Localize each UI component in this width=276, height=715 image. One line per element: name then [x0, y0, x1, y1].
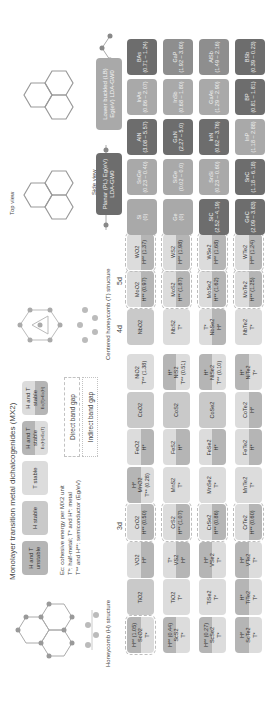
legend-direct-gap: Direct band gap: [64, 377, 80, 457]
tmd-cell: CoSe2: [199, 392, 226, 428]
iiiv-cell: SiGe(0.02 – 0.0): [163, 159, 193, 195]
iiiv-cell: GaN(2.27 – 5.0): [163, 119, 193, 155]
tmd-cell: H*NiTe2T*: [235, 355, 262, 391]
top-view-diagram: [14, 25, 84, 225]
tmd-cell: WSe2H** (1.68): [199, 234, 226, 270]
cell-phase: H** (1.24): [249, 240, 256, 264]
figure-canvas: Honeycomb (H) structure Monolayer transi…: [0, 0, 276, 715]
legend-t-stable: T stable: [22, 461, 48, 495]
cell-formula: NbO2: [137, 320, 144, 334]
cell-phase: H** (0.50): [141, 510, 148, 534]
tmd-cell: WTe2H** (1.24): [235, 234, 262, 270]
cell-phase: T*: [144, 632, 151, 638]
cell-phase: H** (0.86): [213, 510, 220, 534]
cell-gap-values: (3.08 – 5.57): [142, 121, 149, 152]
cell-phase: T** (1.38): [141, 361, 148, 385]
legend-note-semiconductor: T** and H**: semiconductor (Eg/eV): [74, 480, 82, 575]
cell-phase: T** (0.28): [144, 473, 151, 497]
tmd-cell: FeSe2H*: [199, 430, 226, 466]
tmd-cell: NbS2T*: [163, 309, 190, 345]
cell-phase: H*: [249, 407, 256, 413]
iiiv-cell: BAs(0.71 – 1.24): [127, 39, 157, 75]
iiiv-cell: InN(0.62 – 3.76): [199, 119, 229, 155]
cell-formula: CoS2: [173, 403, 180, 417]
cell-formula: TiO2: [137, 592, 144, 604]
cell-phase: T*: [177, 482, 184, 488]
cell-phase: H** (1.62): [213, 277, 220, 301]
cell-gap-values: (1.49 – 2.16): [214, 41, 221, 72]
tmd-cell: CoTe2H*: [235, 392, 262, 428]
cell-phase: T*: [252, 557, 259, 563]
tmd-cell: NiO2T** (1.38): [127, 355, 154, 391]
cell-gap-values: (2.09 – 3.83): [250, 201, 257, 232]
cell-formula: CoO2: [137, 403, 144, 417]
tmd-cell: H** (0.44)ScS2T*: [163, 617, 190, 653]
iiiv-cell: SiC(2.52 – 4.19): [199, 199, 229, 235]
tmd-cell: H*MnO2T** (0.28): [127, 467, 154, 503]
legend-note-half-metal: T*: half-metal; T* and H*: metal: [66, 492, 74, 575]
cell-gap-values: (1.29 – 2.90): [214, 81, 221, 112]
tmd-cell: CrO2H** (0.50): [127, 505, 154, 541]
cell-gap-values: (0.68 – 1.80): [178, 81, 185, 112]
iiiv-cell: InSb(0.68 – 1.80): [163, 79, 193, 115]
cell-phase: H*: [213, 444, 220, 450]
honeycomb-label: Honeycomb (H) structure: [104, 600, 112, 667]
cell-phase: H** (1.98): [177, 240, 184, 264]
tmd-cell: CrTe2H** (0.60): [235, 505, 262, 541]
cell-phase: H*: [141, 557, 148, 563]
cell-formula: CoSe2: [209, 402, 216, 419]
cell-phase: H** (1.07): [177, 510, 184, 534]
tmd-cell: CoO2: [127, 392, 154, 428]
cell-gap-values: (0): [142, 214, 149, 221]
tmd-cell: MoSe2H** (1.62): [199, 272, 226, 308]
group-3d-label: 3d: [116, 522, 123, 530]
planar-label: Planar (PL) Eg(eV) LDA-GW0: [96, 153, 122, 215]
cell-phase: H** (0.97): [141, 277, 148, 301]
cell-phase: T*: [249, 482, 256, 488]
centered-label: Centered honeycomb (T) structure: [104, 268, 112, 360]
cell-gap-values: (2.52 – 4.19): [214, 201, 221, 232]
iiiv-cell: SnC(1.18 – 6.18): [235, 159, 265, 195]
iiiv-cell: AlSb(1.49 – 2.16): [199, 39, 229, 75]
tmd-cell: FeO2H*: [127, 430, 154, 466]
tmd-cell: H** (1.05)ScO2T*: [127, 617, 154, 653]
cell-phase: T*: [216, 557, 223, 563]
legend-h-t-stable-t: H and T stableEc(T)>Ec(H): [22, 381, 48, 415]
tmd-cell: MoS2H** (1.87): [163, 272, 190, 308]
tmd-cell: MnS2T*: [163, 467, 190, 503]
tmd-cell: H** (0.27)ScSe2T*: [199, 617, 226, 653]
legend-h-t-stable-h: H and T stableEc(H)>Ec(T): [22, 421, 48, 455]
t-structure-diagram: [10, 280, 105, 370]
iiiv-cell: InAs(0.86 – 2.07): [127, 79, 157, 115]
tmd-cell: TiO2: [127, 580, 154, 616]
iiiv-cell: GaAs(1.29 – 2.90): [199, 79, 229, 115]
cell-phase: H*: [249, 444, 256, 450]
cell-phase: T*: [249, 324, 256, 330]
tmd-cell: H*ScTe2T*: [235, 617, 262, 653]
iiiv-cell: SnSi(0.23 – 0.60): [199, 159, 229, 195]
cell-phase: H*: [177, 444, 184, 450]
tmd-cell: TiSe2T*: [199, 580, 226, 616]
iiiv-cell: BSb(0.39 – 0.23): [235, 39, 265, 75]
cell-phase: T*: [213, 482, 220, 488]
tmd-cell: CoS2: [163, 392, 190, 428]
tmd-cell: FeS2H*: [163, 430, 190, 466]
group-4d-label: 4d: [116, 325, 123, 333]
tmd-cell: MnSe2T*: [199, 467, 226, 503]
cell-gap-values: (0.02 – 0.0): [178, 163, 185, 191]
cell-phase: H** (1.37): [141, 240, 148, 264]
cell-phase: T*: [252, 632, 259, 638]
iiiv-cell: GaP(1.92 – 3.80): [163, 39, 193, 75]
cell-phase: H** (1.68): [213, 240, 220, 264]
cell-gap-values: (0.39 – 0.23): [250, 41, 257, 72]
figure-title: Monolayer transition metal dichalcogenid…: [8, 403, 17, 580]
cell-phase: T*: [216, 632, 223, 638]
tmd-cell: H*TiTe2T*: [235, 580, 262, 616]
lower-buckled-label: Lower buckled (LB) Eg(eV) LDA-GW0: [96, 58, 122, 130]
iiiv-cell: SnGe(0.23 – 0.40): [127, 159, 157, 195]
h-structure-diagram: [8, 585, 103, 675]
tmd-cell: VO2H*: [127, 542, 154, 578]
cell-phase: T** (0.10): [216, 361, 223, 385]
iiiv-cell: Si(0): [127, 199, 157, 235]
cell-phase: H** (1.25): [249, 277, 256, 301]
